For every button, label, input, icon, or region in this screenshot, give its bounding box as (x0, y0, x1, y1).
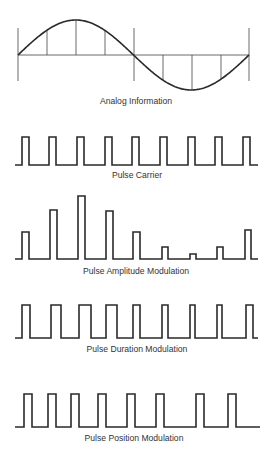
pam-waveform (15, 196, 258, 259)
pam-panel: Pulse Amplitude Modulation (15, 196, 258, 276)
pulse-carrier-panel: Pulse Carrier (15, 137, 258, 180)
ppm-panel: Pulse Position Modulation (15, 394, 260, 443)
pdm-waveform (15, 305, 258, 338)
modulation-diagram: Analog Information Pulse Carrier Pulse A… (0, 0, 276, 455)
ppm-label: Pulse Position Modulation (85, 433, 184, 443)
pulse-carrier-label: Pulse Carrier (112, 170, 162, 180)
pulse-carrier-waveform (15, 137, 258, 165)
ppm-waveform (15, 394, 260, 427)
pdm-panel: Pulse Duration Modulation (15, 305, 258, 354)
analog-information-label: Analog Information (100, 96, 172, 106)
pam-label: Pulse Amplitude Modulation (83, 266, 189, 276)
analog-information-panel: Analog Information (18, 20, 249, 106)
pdm-label: Pulse Duration Modulation (87, 344, 188, 354)
